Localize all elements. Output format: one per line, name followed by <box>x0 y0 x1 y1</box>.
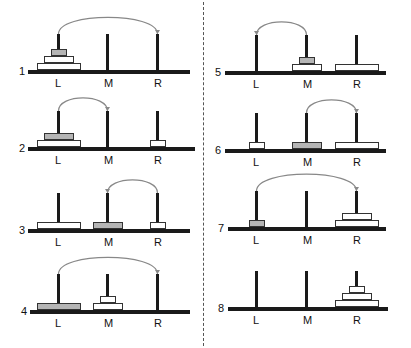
peg-m <box>305 271 308 307</box>
step-number: 8 <box>218 303 224 314</box>
peg-l <box>255 271 258 307</box>
peg-label-l: L <box>253 315 259 326</box>
arrowhead-icon <box>354 187 359 191</box>
peg-label-r: R <box>353 315 361 326</box>
disc-large <box>335 300 379 307</box>
peg-label-m: M <box>303 315 312 326</box>
disc-medium <box>342 293 372 300</box>
tower-of-hanoi-diagram: 1LMR2LMR3LMR4LMR5LMR6LMR7LMR8LMR <box>0 0 411 348</box>
disc-small <box>349 286 365 293</box>
base-platform <box>228 307 388 311</box>
